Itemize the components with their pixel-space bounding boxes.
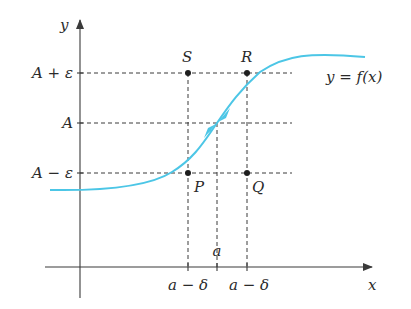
y-axis-label: y bbox=[59, 16, 69, 34]
point-p bbox=[185, 170, 191, 176]
point-label-q: Q bbox=[252, 178, 264, 196]
function-curve bbox=[50, 55, 365, 190]
x-label-left: a − δ bbox=[168, 276, 208, 294]
curve-arrow-up-icon bbox=[204, 124, 216, 138]
point-label-s: S bbox=[182, 48, 192, 66]
y-label-a-plus-epsilon: A + ε bbox=[30, 64, 73, 82]
x-label-a: a bbox=[213, 242, 222, 260]
x-axis-label: x bbox=[368, 276, 377, 294]
y-label-a: A bbox=[60, 114, 73, 132]
curve-label: y = f(x) bbox=[325, 68, 382, 86]
point-label-p: P bbox=[193, 178, 205, 196]
epsilon-delta-diagram: x y S R P Q A + ε A A − ε a − δ a a − δ … bbox=[0, 0, 411, 309]
curve-arrow-down-icon bbox=[218, 108, 230, 122]
y-label-a-minus-epsilon: A − ε bbox=[30, 164, 73, 182]
point-s bbox=[185, 70, 191, 76]
point-r bbox=[244, 70, 250, 76]
x-label-right: a − δ bbox=[229, 276, 269, 294]
point-label-r: R bbox=[240, 48, 252, 66]
point-q bbox=[244, 170, 250, 176]
